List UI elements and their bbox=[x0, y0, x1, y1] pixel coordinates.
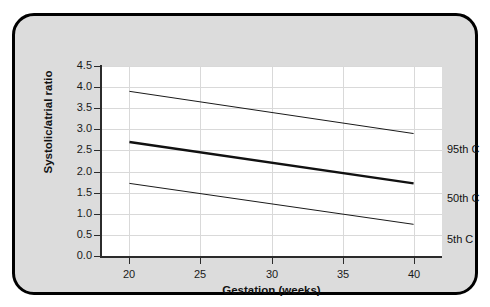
y-axis-tick-labels: 0.00.51.01.52.02.53.03.54.04.5 bbox=[62, 65, 92, 257]
series-line-95th-c bbox=[129, 91, 413, 133]
y-axis-tick bbox=[94, 256, 101, 257]
x-axis-tick-label: 20 bbox=[109, 268, 149, 280]
series-line-5th-c bbox=[129, 183, 413, 224]
y-axis-tick bbox=[94, 214, 101, 215]
x-axis-tick-label: 30 bbox=[252, 268, 292, 280]
y-axis-tick bbox=[94, 66, 101, 67]
x-axis-tick bbox=[129, 258, 130, 264]
x-axis-title: Gestation (weeks) bbox=[101, 284, 442, 296]
x-axis-tick bbox=[200, 258, 201, 264]
y-axis-tick bbox=[94, 172, 101, 173]
y-axis-tick bbox=[94, 150, 101, 151]
y-axis-tick bbox=[94, 235, 101, 236]
y-axis-tick-label: 2.0 bbox=[64, 166, 92, 177]
chart-card-frame: 0.00.51.01.52.02.53.03.54.04.5 202530354… bbox=[12, 13, 478, 295]
series-line-50th-c bbox=[129, 142, 413, 183]
y-axis-tick bbox=[94, 129, 101, 130]
y-axis-title: Systolic/atrial ratio bbox=[42, 42, 54, 202]
y-axis-tick-label: 1.0 bbox=[64, 208, 92, 219]
x-axis-tick bbox=[414, 258, 415, 264]
y-axis-tick-label: 4.5 bbox=[64, 60, 92, 71]
x-axis-tick bbox=[272, 258, 273, 264]
y-axis-tick-label: 3.5 bbox=[64, 102, 92, 113]
y-axis-tick-label: 1.5 bbox=[64, 187, 92, 198]
x-axis-tick-label: 25 bbox=[180, 268, 220, 280]
y-axis-tick bbox=[94, 108, 101, 109]
y-axis-tick bbox=[94, 87, 101, 88]
series-label-50th-c: 50th C bbox=[447, 193, 479, 204]
x-axis-tick-label: 35 bbox=[323, 268, 363, 280]
y-axis-tick bbox=[94, 193, 101, 194]
series-label-95th-c: 95th C bbox=[447, 144, 479, 155]
x-axis-line bbox=[100, 256, 442, 258]
y-axis-tick-label: 0.0 bbox=[64, 250, 92, 261]
x-axis-tick bbox=[343, 258, 344, 264]
x-axis-tick-label: 40 bbox=[394, 268, 434, 280]
y-axis-tick-label: 3.0 bbox=[64, 123, 92, 134]
chart-figure: 0.00.51.01.52.02.53.03.54.04.5 202530354… bbox=[0, 0, 490, 307]
y-axis-tick-label: 2.5 bbox=[64, 144, 92, 155]
y-axis-tick-label: 4.0 bbox=[64, 81, 92, 92]
series-label-5th-c: 5th C bbox=[447, 234, 473, 245]
series-lines bbox=[101, 66, 442, 256]
y-axis-tick-label: 0.5 bbox=[64, 229, 92, 240]
